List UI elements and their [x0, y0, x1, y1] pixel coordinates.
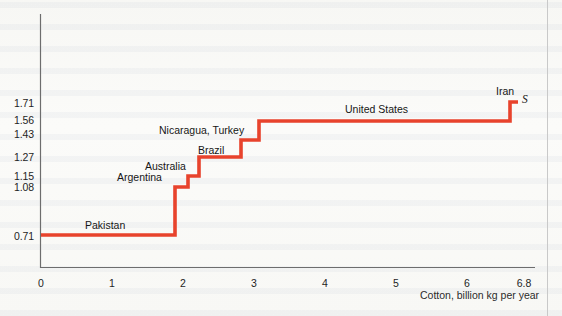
- x-tick-6-8: 6.8: [504, 277, 544, 289]
- label-pakistan: Pakistan: [85, 219, 125, 231]
- y-tick-1-43: 1.43: [0, 128, 34, 140]
- x-tick-1: 1: [92, 277, 132, 289]
- label-supply-curve-s: S: [522, 93, 528, 105]
- chart-svg: [0, 0, 562, 316]
- x-tick-3: 3: [234, 277, 274, 289]
- x-tick-0: 0: [21, 277, 61, 289]
- x-tick-5: 5: [376, 277, 416, 289]
- x-tick-2: 2: [163, 277, 203, 289]
- supply-curve-chart: Price, $ per kg Cotton, billion kg per y…: [0, 0, 562, 316]
- supply-step-curve: [41, 102, 518, 235]
- label-argentina: Argentina: [117, 171, 162, 183]
- label-australia: Australia: [145, 160, 186, 172]
- y-tick-1-27: 1.27: [0, 151, 34, 163]
- x-axis-title: Cotton, billion kg per year: [420, 289, 539, 301]
- label-iran: Iran: [496, 85, 514, 97]
- label-nicaragua-turkey: Nicaragua, Turkey: [159, 124, 244, 136]
- label-united-states: United States: [345, 103, 408, 115]
- label-brazil: Brazil: [198, 144, 224, 156]
- x-tick-6: 6: [447, 277, 487, 289]
- y-tick-1-08: 1.08: [0, 181, 34, 193]
- y-tick-1-56: 1.56: [0, 114, 34, 126]
- y-tick-1-71: 1.71: [0, 97, 34, 109]
- y-tick-1-15: 1.15: [0, 170, 34, 182]
- figure-canvas: Price, $ per kg Cotton, billion kg per y…: [0, 0, 562, 316]
- y-tick-0-71: 0.71: [0, 230, 34, 242]
- x-tick-4: 4: [305, 277, 345, 289]
